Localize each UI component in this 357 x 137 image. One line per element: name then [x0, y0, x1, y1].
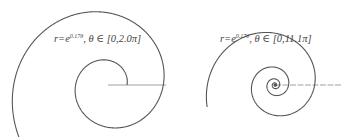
spiral-label-left: r=e0.17θ, θ ∈ [0,2.0π] [54, 32, 141, 44]
label-exponent: 0.17θ [236, 33, 249, 39]
spiral-curve-right [206, 32, 315, 115]
label-exponent: 0.17θ [70, 33, 83, 39]
label-eq: =e [224, 33, 236, 44]
spiral-label-right: r=e0.17θ, θ ∈ [0,11.1π] [220, 32, 312, 44]
spiral-canvas [0, 0, 357, 137]
spiral-curve-left [12, 12, 164, 137]
label-eq: =e [58, 33, 70, 44]
label-range: , θ ∈ [0,11.1π] [249, 33, 311, 44]
label-range: , θ ∈ [0,2.0π] [83, 33, 141, 44]
